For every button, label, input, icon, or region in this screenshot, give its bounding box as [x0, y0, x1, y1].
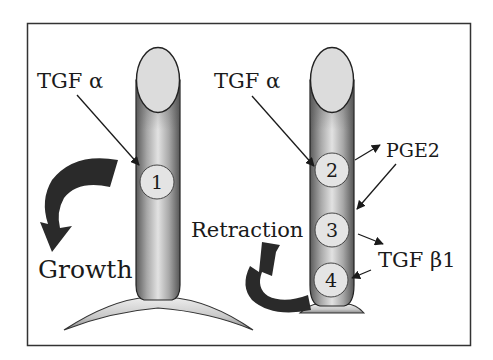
right-follicle-cap	[311, 48, 354, 113]
site-1: 1	[140, 165, 174, 199]
growth-label: Growth	[38, 255, 133, 284]
site-number: 2	[326, 159, 338, 181]
hair-follicle-diagram: 1 TGF α Growth 2 3 4 TGF α PGE2	[0, 0, 493, 360]
pge2-label: PGE2	[386, 139, 440, 161]
right-tgf-alpha-label: TGF α	[214, 69, 280, 93]
left-tgf-alpha-label: TGF α	[37, 69, 103, 93]
site-number: 3	[326, 219, 338, 241]
site-3: 3	[315, 213, 349, 247]
site-2: 2	[315, 153, 349, 187]
right-follicle: 2 3 4	[300, 48, 364, 314]
site-4: 4	[314, 263, 348, 297]
retraction-label: Retraction	[191, 218, 303, 242]
tgf-beta1-label: TGF β1	[378, 248, 456, 272]
site-number: 4	[325, 269, 337, 291]
left-follicle-cap	[137, 48, 180, 113]
site-number: 1	[151, 171, 163, 193]
